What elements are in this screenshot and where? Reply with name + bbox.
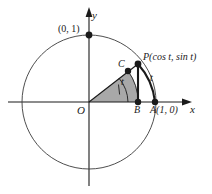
arc-AP-bold (138, 64, 155, 102)
label-top-point-0-1: (0, 1) (58, 24, 80, 34)
label-central-angle-t: t (121, 77, 124, 87)
point-P (135, 61, 142, 68)
point-C (125, 68, 131, 74)
label-arc-length-t: t (150, 73, 153, 83)
point-top-0-1 (86, 32, 93, 39)
label-point-a: A(1, 0) (150, 105, 178, 115)
unit-circle-diagram-canvas (0, 0, 212, 194)
label-point-c: C (118, 59, 125, 69)
label-point-p: P(cos t, sin t) (143, 52, 196, 62)
label-origin: O (77, 105, 85, 116)
label-y-axis: y (92, 10, 97, 21)
unit-circle-figure: (0, 1) P(cos t, sin t) C B A(1, 0) y x O… (0, 0, 212, 194)
label-point-b: B (134, 105, 140, 115)
label-x-axis: x (190, 104, 195, 115)
